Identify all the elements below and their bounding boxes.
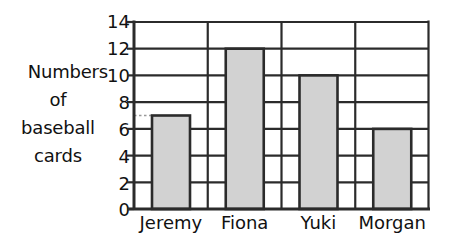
plot-area: [0, 0, 450, 248]
bar-yuki[interactable]: [300, 75, 338, 209]
x-label-fiona: Fiona: [208, 213, 282, 233]
bar-fiona[interactable]: [226, 49, 264, 209]
x-label-morgan: Morgan: [355, 213, 429, 233]
x-label-jeremy: Jeremy: [134, 213, 208, 233]
bar-chart: Numbers of baseball cards 14 12 10 8 6 4…: [0, 0, 450, 248]
x-label-yuki: Yuki: [282, 213, 356, 233]
bar-morgan[interactable]: [373, 129, 411, 209]
bar-jeremy[interactable]: [152, 116, 190, 210]
